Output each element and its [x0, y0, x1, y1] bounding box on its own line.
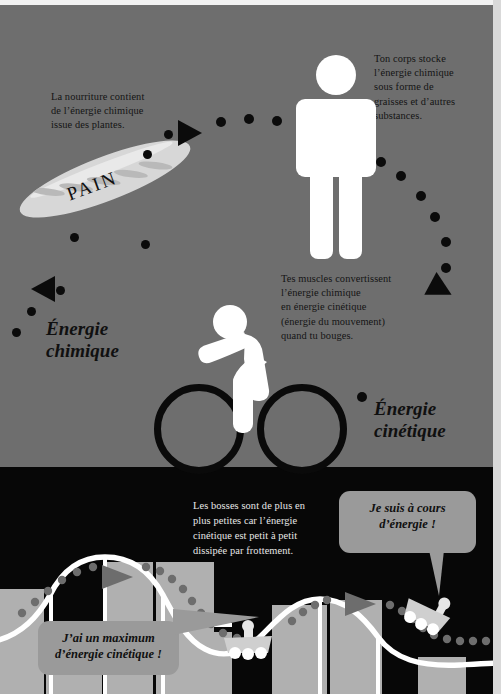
friction-caption-text: Les bosses sont de plus en plus petites …: [193, 498, 353, 558]
infographic-page: La nourriture contient de l’énergie chim…: [0, 0, 501, 694]
flow-dot: [441, 237, 451, 247]
flow-dot: [12, 328, 21, 337]
cyclist-rider: [150, 300, 335, 468]
flow-dot: [164, 130, 173, 139]
flow-dot: [272, 116, 282, 126]
flow-dot: [216, 117, 226, 127]
max-kinetic-bubble: J’ai un maximum d’énergie cinétique !: [38, 621, 179, 675]
out-of-energy-bubble: Je suis à cours d’énergie !: [339, 491, 476, 553]
kinetic-energy-label: Énergie cinétique: [374, 398, 446, 442]
baguette-slash: [114, 168, 149, 179]
flow-dot: [244, 114, 254, 124]
person-head: [316, 55, 356, 95]
flow-dot: [56, 286, 65, 295]
flow-dot: [416, 191, 426, 201]
flow-dot: [376, 157, 386, 167]
flow-arrow-right: [178, 120, 202, 146]
chemical-energy-label: Énergie chimique: [46, 318, 119, 362]
flow-dot: [357, 392, 367, 402]
person-leg-left: [310, 173, 333, 259]
body-storage-callout-text: Ton corps stocke l’énergie chimique sous…: [374, 52, 494, 123]
flow-dot: [396, 171, 406, 181]
standing-person-pictogram: [296, 55, 376, 259]
flow-dot: [441, 263, 451, 273]
bubble-tail: [429, 550, 444, 596]
flow-dot: [27, 307, 36, 316]
flow-dot: [430, 212, 440, 222]
flow-dot: [141, 240, 150, 249]
flow-dot: [70, 233, 79, 242]
person-leg-right: [339, 173, 362, 259]
cyclist-pictogram: [150, 300, 335, 468]
right-light-strip: [493, 0, 501, 694]
flow-arrow-left: [31, 276, 55, 302]
person-torso: [296, 99, 376, 177]
bubble-tail: [173, 609, 259, 635]
baguette-slash: [138, 160, 173, 171]
flow-dot: [143, 150, 152, 159]
